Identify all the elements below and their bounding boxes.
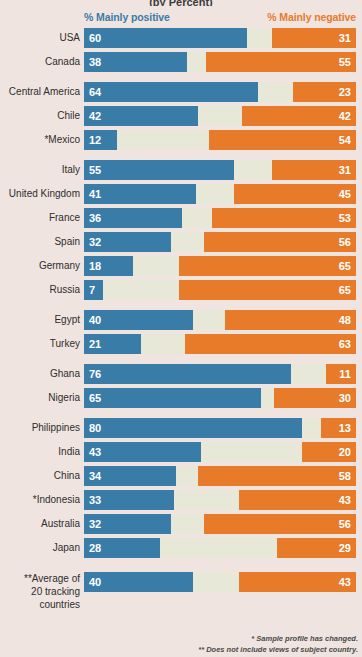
bar-positive: 80 bbox=[84, 418, 302, 438]
chart-row: United Kingdom4145 bbox=[0, 184, 362, 204]
value-positive: 18 bbox=[89, 256, 101, 276]
value-negative: 54 bbox=[339, 130, 351, 150]
chart-row: China3458 bbox=[0, 466, 362, 486]
row-label: China bbox=[0, 466, 80, 486]
value-positive: 76 bbox=[89, 364, 101, 384]
value-positive: 41 bbox=[89, 184, 101, 204]
bar-negative: 43 bbox=[239, 490, 356, 510]
bar-positive: 32 bbox=[84, 514, 171, 534]
chart-row: Nigeria6530 bbox=[0, 388, 362, 408]
value-positive: 38 bbox=[89, 52, 101, 72]
row-label: Italy bbox=[0, 160, 80, 180]
chart-row: *Mexico1254 bbox=[0, 130, 362, 150]
row-track: 765 bbox=[84, 280, 356, 300]
bar-positive: 76 bbox=[84, 364, 291, 384]
bar-negative: 53 bbox=[212, 208, 356, 228]
value-negative: 11 bbox=[339, 364, 351, 384]
value-positive: 40 bbox=[89, 310, 101, 330]
bar-positive: 40 bbox=[84, 310, 193, 330]
chart-legend: % Mainly positive % Mainly negative bbox=[0, 11, 362, 27]
row-track: 3256 bbox=[84, 514, 356, 534]
chart-row: Australia3256 bbox=[0, 514, 362, 534]
legend-negative-label: % Mainly negative bbox=[267, 11, 356, 23]
row-track: 3343 bbox=[84, 490, 356, 510]
average-label-line: countries bbox=[0, 598, 80, 611]
row-label: Central America bbox=[0, 82, 80, 102]
bar-negative: 31 bbox=[272, 28, 356, 48]
bar-positive: 36 bbox=[84, 208, 182, 228]
bar-negative: 30 bbox=[274, 388, 356, 408]
value-negative: 42 bbox=[339, 106, 351, 126]
bar-positive: 55 bbox=[84, 160, 234, 180]
average-value-positive: 40 bbox=[89, 572, 101, 592]
row-track: 4145 bbox=[84, 184, 356, 204]
value-positive: 36 bbox=[89, 208, 101, 228]
value-positive: 21 bbox=[89, 334, 101, 354]
chart-row: *Indonesia3343 bbox=[0, 490, 362, 510]
chart-row: France3653 bbox=[0, 208, 362, 228]
row-track: 3653 bbox=[84, 208, 356, 228]
chart-row: Ghana7611 bbox=[0, 364, 362, 384]
value-negative: 31 bbox=[339, 160, 351, 180]
bar-positive: 21 bbox=[84, 334, 141, 354]
chart-footnotes: * Sample profile has changed. ** Does no… bbox=[198, 633, 358, 655]
bar-negative: 11 bbox=[326, 364, 356, 384]
value-positive: 32 bbox=[89, 514, 101, 534]
value-positive: 32 bbox=[89, 232, 101, 252]
bar-negative: 13 bbox=[321, 418, 356, 438]
chart-row: USA6031 bbox=[0, 28, 362, 48]
bar-positive: 12 bbox=[84, 130, 117, 150]
row-track: 3458 bbox=[84, 466, 356, 486]
value-negative: 65 bbox=[339, 256, 351, 276]
bar-negative: 55 bbox=[206, 52, 356, 72]
value-negative: 20 bbox=[339, 442, 351, 462]
row-track: 8013 bbox=[84, 418, 356, 438]
row-label: Chile bbox=[0, 106, 80, 126]
chart-row: Philippines8013 bbox=[0, 418, 362, 438]
value-negative: 65 bbox=[339, 280, 351, 300]
average-track: 4043 bbox=[84, 572, 356, 592]
value-positive: 55 bbox=[89, 160, 101, 180]
value-positive: 43 bbox=[89, 442, 101, 462]
bar-negative: 23 bbox=[293, 82, 356, 102]
bar-positive: 7 bbox=[84, 280, 103, 300]
row-track: 5531 bbox=[84, 160, 356, 180]
chart-row: India4320 bbox=[0, 442, 362, 462]
bar-negative: 63 bbox=[185, 334, 356, 354]
row-track: 6031 bbox=[84, 28, 356, 48]
value-negative: 29 bbox=[339, 538, 351, 558]
row-track: 2163 bbox=[84, 334, 356, 354]
value-positive: 34 bbox=[89, 466, 101, 486]
bar-positive: 41 bbox=[84, 184, 196, 204]
chart-row: Canada3855 bbox=[0, 52, 362, 72]
bar-positive: 65 bbox=[84, 388, 261, 408]
bar-negative: 20 bbox=[302, 442, 356, 462]
bar-positive: 28 bbox=[84, 538, 160, 558]
chart-row: Central America6423 bbox=[0, 82, 362, 102]
chart-row: Germany1865 bbox=[0, 256, 362, 276]
value-positive: 60 bbox=[89, 28, 101, 48]
row-track: 1254 bbox=[84, 130, 356, 150]
bar-positive: 32 bbox=[84, 232, 171, 252]
value-positive: 33 bbox=[89, 490, 101, 510]
row-label: *Mexico bbox=[0, 130, 80, 150]
value-negative: 56 bbox=[339, 232, 351, 252]
row-track: 4242 bbox=[84, 106, 356, 126]
row-track: 4048 bbox=[84, 310, 356, 330]
bar-positive: 18 bbox=[84, 256, 133, 276]
bar-negative: 65 bbox=[179, 256, 356, 276]
value-positive: 7 bbox=[89, 280, 95, 300]
row-track: 7611 bbox=[84, 364, 356, 384]
bar-negative: 48 bbox=[225, 310, 356, 330]
average-label: **Average of20 trackingcountries bbox=[0, 572, 80, 611]
bar-negative: 54 bbox=[209, 130, 356, 150]
row-label: France bbox=[0, 208, 80, 228]
footnote-two: ** Does not include views of subject cou… bbox=[198, 644, 358, 655]
chart-row: Chile4242 bbox=[0, 106, 362, 126]
row-label: USA bbox=[0, 28, 80, 48]
value-negative: 63 bbox=[339, 334, 351, 354]
legend-positive-label: % Mainly positive bbox=[84, 11, 170, 23]
chart-root: (by Percent) % Mainly positive % Mainly … bbox=[0, 0, 362, 657]
bar-negative: 56 bbox=[204, 514, 356, 534]
row-track: 6423 bbox=[84, 82, 356, 102]
